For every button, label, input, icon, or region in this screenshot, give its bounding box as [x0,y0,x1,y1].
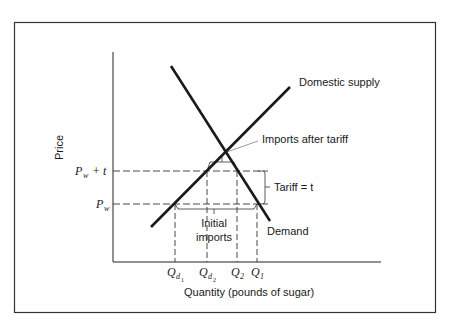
demand-label: Demand [267,225,309,237]
q1-label: Q 1 [251,265,264,281]
svg-text:Q: Q [167,265,176,279]
svg-text:1: 1 [181,277,184,283]
svg-text:2: 2 [240,272,244,281]
initial-imports-label-line1: Initial [201,217,227,229]
tariff-bracket [258,171,265,204]
initial-imports-bracket [175,204,257,209]
qd2-label: Q d 2 [199,265,216,283]
domestic-supply-label: Domestic supply [299,76,380,88]
svg-text:2: 2 [213,277,216,283]
imports-after-tariff-label: Imports after tariff [262,133,349,145]
svg-text:Q: Q [231,265,240,279]
svg-text:w: w [83,171,89,180]
q2-label: Q 2 [231,265,244,281]
svg-text:Q: Q [251,265,260,279]
y-axis-label: Price [53,135,65,160]
svg-text:P: P [74,164,83,178]
initial-imports-label-line2: imports [196,231,233,243]
svg-text:P: P [95,197,104,211]
svg-text:w: w [104,204,110,213]
demand-curve [171,66,270,221]
pw-label: P w [95,197,110,213]
qd1-label: Q d 1 [167,265,184,283]
svg-text:1: 1 [260,272,264,281]
x-axis-label: Quantity (pounds of sugar) [184,286,314,298]
svg-text:Q: Q [199,265,208,279]
svg-text:+ t: + t [92,164,107,178]
tariff-diagram: Domestic supply Demand Imports after tar… [0,0,460,331]
pw-plus-t-label: P w + t [74,164,107,180]
domestic-supply-curve [151,87,290,227]
tariff-label: Tariff = t [274,181,313,193]
